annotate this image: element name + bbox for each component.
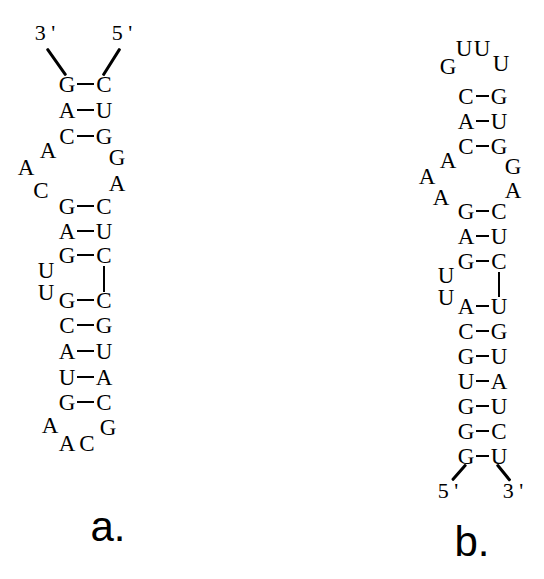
base-left: A (59, 340, 76, 363)
base-right: C (491, 200, 506, 223)
base-right: U (491, 345, 508, 368)
base-left: U (458, 370, 475, 393)
five-prime-label-a: 5 ' (112, 22, 132, 44)
internal-loop-base: A (18, 156, 35, 179)
base-left: A (59, 99, 76, 122)
internal-loop-base: A (109, 172, 126, 195)
hairpin-loop-base: G (100, 416, 117, 439)
base-pair-bond (77, 205, 94, 207)
base-left: A (458, 225, 475, 248)
base-pair-bond (77, 135, 94, 137)
panel-label-b: b. (454, 521, 489, 563)
base-pair-bond (77, 83, 94, 85)
base-pair-bond (476, 235, 489, 237)
base-right: U (96, 99, 113, 122)
base-left: G (458, 395, 475, 418)
three-prime-label-a: 3 ' (35, 22, 55, 44)
bulge-base: U (438, 286, 455, 309)
base-pair-bond (77, 299, 94, 301)
panel-label-a: a. (90, 506, 125, 548)
base-pair-bond (476, 120, 489, 122)
internal-loop-base: A (440, 149, 457, 172)
base-right: A (491, 370, 508, 393)
internal-loop-base: A (40, 139, 57, 162)
base-pair-bond (476, 305, 489, 307)
base-left: G (59, 73, 76, 96)
bulge-base: U (38, 259, 55, 282)
rna-structure-figure: GCAUCGGCAUGCGCCGAUUAGCAACGAUUAACG5 '3 'a… (0, 0, 544, 579)
base-right: C (491, 250, 506, 273)
internal-loop-base: A (433, 186, 450, 209)
hairpin-loop-base: U (474, 37, 491, 60)
base-pair-bond (476, 405, 489, 407)
internal-loop-base: G (109, 146, 126, 169)
base-pair-bond (476, 330, 489, 332)
base-right: U (96, 340, 113, 363)
hairpin-loop-base: C (79, 432, 94, 455)
base-right: U (491, 225, 508, 248)
base-pair-bond (476, 380, 489, 382)
base-left: A (458, 110, 475, 133)
base-pair-bond (77, 254, 94, 256)
base-right: C (96, 195, 111, 218)
base-left: A (458, 295, 475, 318)
base-left: G (59, 289, 76, 312)
base-right: U (491, 110, 508, 133)
internal-loop-base: A (505, 179, 522, 202)
hairpin-loop-base: A (42, 414, 59, 437)
internal-loop-base: G (505, 155, 522, 178)
base-right: G (491, 85, 508, 108)
bulge-base: U (38, 281, 55, 304)
base-right: C (491, 420, 506, 443)
base-left: G (59, 244, 76, 267)
bulge-base: U (438, 264, 455, 287)
base-right: C (96, 244, 111, 267)
base-right: U (491, 395, 508, 418)
base-left: G (458, 250, 475, 273)
base-left: C (458, 320, 473, 343)
five-prime-label-b: 5 ' (438, 480, 458, 502)
base-left: U (59, 366, 76, 389)
base-pair-bond (476, 95, 489, 97)
hairpin-loop-base: U (456, 37, 473, 60)
base-left: G (59, 195, 76, 218)
base-left: C (458, 85, 473, 108)
base-right: C (96, 391, 111, 414)
hairpin-loop-base: G (440, 55, 457, 78)
base-left: C (59, 125, 74, 148)
base-pair-bond (77, 324, 94, 326)
base-right: U (491, 295, 508, 318)
base-left: G (458, 345, 475, 368)
base-pair-bond (476, 260, 489, 262)
base-right: G (491, 320, 508, 343)
backbone-connector-right (103, 266, 105, 292)
base-pair-bond (476, 210, 489, 212)
base-left: G (458, 200, 475, 223)
base-pair-bond (476, 430, 489, 432)
base-right: U (96, 220, 113, 243)
hairpin-loop-base: U (493, 52, 510, 75)
base-left: C (59, 314, 74, 337)
base-pair-bond (476, 145, 489, 147)
base-pair-bond (77, 376, 94, 378)
base-left: C (458, 135, 473, 158)
base-right: A (96, 366, 113, 389)
base-pair-bond (476, 355, 489, 357)
base-pair-bond (77, 230, 94, 232)
hairpin-loop-base: A (59, 432, 76, 455)
base-left: G (59, 391, 76, 414)
internal-loop-base: C (33, 179, 48, 202)
backbone-connector-right (498, 272, 500, 297)
base-left: A (59, 220, 76, 243)
base-pair-bond (77, 401, 94, 403)
base-right: G (96, 314, 113, 337)
base-left: G (458, 420, 475, 443)
base-pair-bond (77, 109, 94, 111)
three-prime-label-b: 3 ' (503, 480, 523, 502)
base-pair-bond (77, 350, 94, 352)
base-pair-bond (476, 455, 489, 457)
